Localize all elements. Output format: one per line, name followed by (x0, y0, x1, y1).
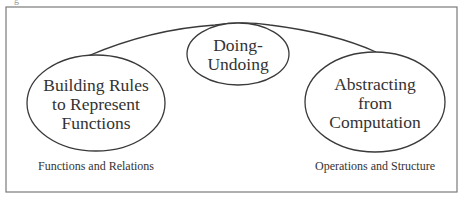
caption-operations-structure: Operations and Structure (315, 159, 435, 174)
node-text-line: to Represent (43, 95, 149, 114)
node-label-abstracting: Abstracting from Computation (329, 75, 420, 132)
node-text-line: Abstracting (329, 75, 420, 94)
node-text-line: Undoing (207, 55, 268, 74)
node-label-building-rules: Building Rules to Represent Functions (43, 76, 149, 133)
node-text-line: Doing- (207, 36, 268, 55)
caption-functions-relations: Functions and Relations (38, 159, 154, 174)
node-text-line: Computation (329, 113, 420, 132)
node-text-line: Functions (43, 114, 149, 133)
node-label-doing-undoing: Doing- Undoing (207, 36, 268, 74)
diagram-figure: g Building Rules to Represent Functions … (0, 0, 466, 198)
node-text-line: Building Rules (43, 76, 149, 95)
node-text-line: from (329, 94, 420, 113)
